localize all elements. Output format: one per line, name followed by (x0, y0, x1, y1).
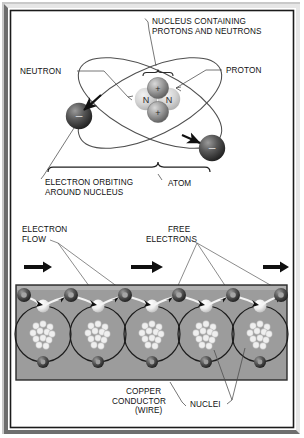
bound-electron-inner (96, 360, 101, 365)
electron-symbol-left: – (76, 109, 83, 123)
label-copper-line3: (WIRE) (135, 406, 163, 415)
label-atom: ATOM (168, 179, 191, 188)
conductor-top-highlight (17, 286, 286, 290)
label-electron-orbit-line2: AROUND NUCLEUS (45, 188, 124, 197)
figure-root: N N + + – – (0, 0, 304, 438)
free-electron (274, 288, 288, 302)
label-nucleus-line1: NUCLEUS CONTAINING (152, 17, 246, 26)
label-nucleus-line2: PROTONS AND NEUTRONS (152, 27, 262, 36)
label-electron-orbit-line1: ELECTRON ORBITING (45, 178, 133, 187)
free-electron (172, 288, 186, 302)
label-electron-flow-line1: ELECTRON (22, 225, 67, 234)
bound-electron-inner (41, 360, 46, 365)
bound-electron-inner (150, 360, 155, 365)
label-electron-flow-line2: FLOW (22, 235, 46, 244)
free-electron (17, 288, 31, 302)
neutron-symbol-left: N (143, 95, 150, 105)
free-electron (226, 288, 240, 302)
free-electron (64, 288, 78, 302)
proton-symbol-top: + (155, 84, 160, 94)
label-free-electrons-line2: ELECTRONS (146, 235, 197, 244)
label-neutron: NEUTRON (20, 67, 61, 76)
proton-symbol-bottom: + (155, 108, 160, 118)
label-copper-line2: CONDUCTOR (112, 397, 166, 406)
label-free-electrons-line1: FREE (168, 225, 191, 234)
bound-electron-inner (204, 360, 209, 365)
free-electron (118, 288, 132, 302)
electron-symbol-right: – (209, 141, 216, 155)
bound-electron-inner (258, 360, 263, 365)
neutron-symbol-right: N (166, 95, 173, 105)
label-proton: PROTON (226, 66, 261, 75)
label-nuclei: NUCLEI (190, 400, 221, 409)
label-copper-line1: COPPER (126, 387, 161, 396)
